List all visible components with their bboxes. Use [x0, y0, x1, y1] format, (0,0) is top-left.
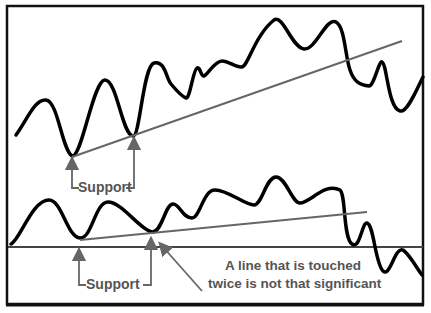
support-diagram	[0, 0, 431, 313]
bottom-support-trendline	[80, 212, 367, 240]
note-pointer-arrow	[163, 247, 202, 291]
bottom-support-label: Support	[86, 276, 140, 293]
note-line-2: twice is not that significant	[208, 275, 381, 293]
top-support-label: Support	[78, 179, 132, 196]
top-price-line	[16, 19, 423, 156]
note-line-1: A line that is touched	[225, 257, 361, 275]
top-support-trendline	[72, 41, 402, 157]
